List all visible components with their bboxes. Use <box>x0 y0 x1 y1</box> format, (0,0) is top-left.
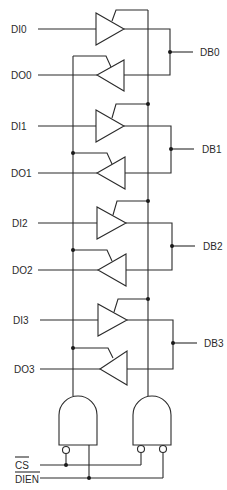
di3-label: DI3 <box>13 315 29 326</box>
di2-label: DI2 <box>12 218 28 229</box>
channel-2: DI2 DO2 DB2 <box>12 199 223 286</box>
di-enable-gate-icon <box>133 396 171 445</box>
cs-inversion-bubble-2-icon <box>138 446 145 453</box>
db2-label: DB2 <box>203 241 223 252</box>
do-enable-gate-icon <box>59 396 97 445</box>
do-buffer-2-icon <box>98 254 126 286</box>
cs-label: CS <box>15 460 29 471</box>
dien-inversion-bubble-icon <box>160 446 167 453</box>
channel-1: DI1 DO1 DB1 <box>11 102 222 189</box>
di-buffer-1-icon <box>96 110 124 142</box>
channel-3: DI3 DO3 DB3 <box>13 297 224 385</box>
di-buffer-0-icon <box>96 13 124 45</box>
db1-label: DB1 <box>202 144 222 155</box>
di1-label: DI1 <box>11 121 27 132</box>
di0-label: DI0 <box>11 24 27 35</box>
db0-label: DB0 <box>200 47 220 58</box>
do0-label: DO0 <box>11 70 32 81</box>
transceiver-diagram: DI0 DO0 DB0 DI1 DO1 DB1 DI2 DO2 DB2 <box>0 0 227 490</box>
do1-label: DO1 <box>11 168 32 179</box>
dien-label: DIEN <box>15 474 39 485</box>
do2-label: DO2 <box>12 265 33 276</box>
di-buffer-2-icon <box>97 207 126 239</box>
di-buffer-3-icon <box>98 304 127 336</box>
channel-0: DI0 DO0 DB0 <box>11 10 220 91</box>
do3-label: DO3 <box>14 364 35 375</box>
cs-inversion-bubble-icon <box>63 447 70 454</box>
do-buffer-3-icon <box>100 351 127 385</box>
db3-label: DB3 <box>204 338 224 349</box>
